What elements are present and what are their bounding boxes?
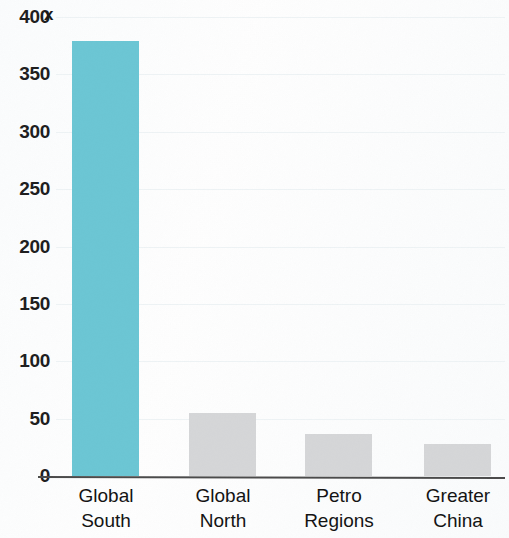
x-tick-label-line: Petro <box>292 483 386 508</box>
bar-chart-figure: 400 350 300 250 200 150 100 50 0 x Globa… <box>0 0 509 538</box>
bar-global-south <box>72 41 139 476</box>
x-axis-line <box>38 476 505 479</box>
x-tick-label-line: Global <box>177 483 269 508</box>
x-tick-label-line: Greater <box>411 483 505 508</box>
bar-petro-regions <box>305 434 372 476</box>
x-tick-label-global-north: Global North <box>177 483 269 533</box>
x-tick-label-line: Regions <box>292 508 386 533</box>
x-tick-label-greater-china: Greater China <box>411 483 505 533</box>
x-tick-label-petro-regions: Petro Regions <box>292 483 386 533</box>
x-tick-label-line: South <box>60 508 152 533</box>
x-tick-label-line: China <box>411 508 505 533</box>
bar-global-north <box>189 413 256 476</box>
x-tick-label-global-south: Global South <box>60 483 152 533</box>
x-tick-label-line: Global <box>60 483 152 508</box>
x-tick-label-line: North <box>177 508 269 533</box>
bars-layer <box>0 0 509 476</box>
bar-greater-china <box>424 444 491 476</box>
